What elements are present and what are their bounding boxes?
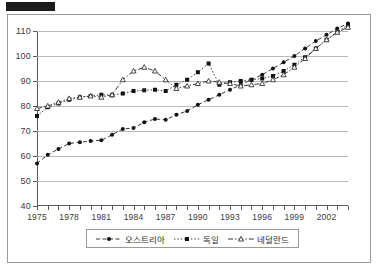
filled-square-icon	[174, 234, 200, 244]
x-tick-mark	[144, 206, 145, 210]
y-axis-label: 60	[21, 151, 31, 161]
x-tick-mark	[241, 206, 242, 210]
x-tick-mark	[69, 206, 70, 210]
legend-entry-2: 독일	[174, 233, 219, 245]
y-axis-label: 50	[21, 176, 31, 186]
y-axis-label: 90	[21, 76, 31, 86]
x-tick-mark	[305, 206, 306, 210]
y-axis-label: 80	[21, 101, 31, 111]
legend-entry-3: 네덜란드	[228, 233, 289, 245]
x-tick-mark	[37, 206, 38, 210]
y-axis-label: 70	[21, 126, 31, 136]
x-axis-label: 1993	[220, 212, 240, 222]
x-tick-mark	[262, 206, 263, 210]
x-axis-label: 1999	[285, 212, 305, 222]
x-tick-mark	[166, 206, 167, 210]
y-axis-label: 110	[16, 26, 31, 36]
x-tick-mark	[230, 206, 231, 210]
x-tick-mark	[101, 206, 102, 210]
series-2	[35, 23, 350, 118]
x-tick-mark	[198, 206, 199, 210]
x-tick-mark	[155, 206, 156, 210]
x-tick-mark	[112, 206, 113, 210]
y-axis-label: 40	[21, 201, 31, 211]
redaction-bar	[6, 2, 55, 11]
x-tick-mark	[251, 206, 252, 210]
x-tick-mark	[134, 206, 135, 210]
chart-screenshot: 405060708090100110 197519781981198419871…	[0, 0, 379, 270]
y-axis-label: 100	[15, 51, 31, 61]
chart-legend: 오스트리아독일네덜란드	[86, 229, 299, 248]
legend-label: 네덜란드	[257, 233, 289, 245]
x-axis-label: 1981	[91, 212, 111, 222]
x-axis-label: 1975	[27, 212, 47, 222]
legend-label: 독일	[203, 233, 219, 245]
x-tick-mark	[209, 206, 210, 210]
x-axis-label: 1990	[188, 212, 208, 222]
x-tick-mark	[48, 206, 49, 210]
series-3	[35, 25, 351, 111]
x-tick-mark	[337, 206, 338, 210]
x-axis-label: 1978	[59, 212, 79, 222]
x-axis-label: 1984	[124, 212, 144, 222]
series-1	[35, 22, 350, 166]
x-axis-label: 1987	[156, 212, 176, 222]
x-axis-label: 2002	[317, 212, 337, 222]
x-axis-label: 1996	[252, 212, 272, 222]
legend-entry-1: 오스트리아	[96, 233, 165, 245]
x-tick-mark	[187, 206, 188, 210]
plot-area: 405060708090100110 197519781981198419871…	[37, 31, 348, 206]
x-tick-mark	[327, 206, 328, 210]
x-tick-mark	[80, 206, 81, 210]
x-tick-mark	[91, 206, 92, 210]
data-series-layer	[37, 31, 348, 206]
x-tick-mark	[273, 206, 274, 210]
filled-circle-icon	[96, 234, 122, 244]
x-tick-mark	[294, 206, 295, 210]
x-tick-mark	[123, 206, 124, 210]
x-tick-mark	[348, 206, 349, 210]
x-tick-mark	[219, 206, 220, 210]
x-tick-mark	[176, 206, 177, 210]
x-tick-mark	[58, 206, 59, 210]
x-tick-mark	[284, 206, 285, 210]
x-tick-mark	[316, 206, 317, 210]
legend-label: 오스트리아	[125, 233, 165, 245]
open-triangle-icon	[228, 234, 254, 244]
